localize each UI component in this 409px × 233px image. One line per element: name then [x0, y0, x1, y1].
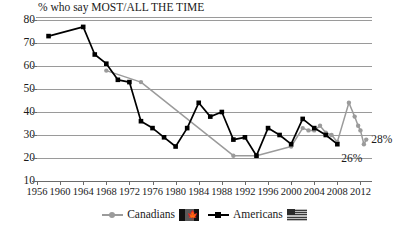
data-point-americans: [150, 126, 155, 131]
data-point-canadians: [306, 128, 310, 132]
data-point-americans: [323, 133, 328, 138]
data-point-americans: [185, 126, 190, 131]
data-point-canadians: [318, 124, 322, 128]
data-point-canadians: [329, 133, 333, 137]
data-point-canadians: [231, 154, 235, 158]
data-point-americans: [92, 52, 97, 57]
data-point-canadians: [300, 126, 304, 130]
data-point-americans: [173, 144, 178, 149]
data-point-americans: [289, 142, 294, 147]
americans-line-swatch-icon: [208, 210, 229, 219]
chart-container: % who say MOST/ALL THE TIME 807060504030…: [0, 0, 409, 233]
data-point-canadians: [356, 124, 360, 128]
data-point-americans: [231, 137, 236, 142]
annotation-label: 28%: [371, 133, 392, 145]
data-point-americans: [104, 61, 109, 66]
canada-flag-icon: 🍁: [179, 209, 199, 221]
data-point-canadians: [358, 128, 362, 132]
data-point-americans: [220, 110, 225, 115]
data-point-americans: [162, 135, 167, 140]
usa-flag-icon: [287, 209, 307, 221]
data-point-canadians: [362, 142, 366, 146]
data-point-americans: [116, 78, 121, 83]
data-point-americans: [254, 153, 259, 158]
data-point-americans: [243, 135, 248, 140]
legend-item-canadians[interactable]: Canadians 🍁: [102, 208, 199, 221]
chart-legend: Canadians 🍁 Americans: [0, 208, 409, 221]
data-point-canadians: [364, 137, 368, 141]
data-point-americans: [46, 34, 51, 39]
series-line-americans: [49, 27, 338, 156]
legend-label-canadians: Canadians: [127, 208, 175, 221]
canadians-line-swatch-icon: [102, 210, 123, 219]
annotation-label: 26%: [341, 152, 362, 164]
data-point-canadians: [352, 114, 356, 118]
series-lines: [0, 0, 409, 233]
legend-label-americans: Americans: [233, 208, 283, 221]
data-point-canadians: [139, 80, 143, 84]
data-point-canadians: [104, 68, 108, 72]
data-point-americans: [81, 25, 86, 30]
data-point-americans: [139, 119, 144, 124]
data-point-americans: [266, 126, 271, 131]
data-point-americans: [312, 126, 317, 131]
series-line-canadians: [106, 71, 366, 156]
data-point-canadians: [347, 101, 351, 105]
data-point-americans: [208, 114, 213, 119]
data-point-americans: [127, 80, 132, 85]
data-point-americans: [335, 142, 340, 147]
data-point-americans: [300, 117, 305, 122]
data-point-americans: [277, 133, 282, 138]
data-point-americans: [196, 101, 201, 106]
legend-item-americans[interactable]: Americans: [208, 208, 307, 221]
